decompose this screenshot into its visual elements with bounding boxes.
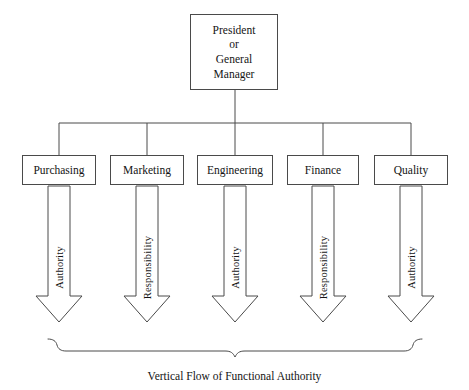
department-label-purchasing: Purchasing [33,163,84,178]
flow-label-purchasing: Authority [54,208,65,328]
org-chart-diagram: President or General Manager Purchasing … [0,0,469,390]
flow-label-marketing: Responsibility [142,208,153,328]
node-president-or-general-manager[interactable]: President or General Manager [190,14,278,90]
top-node-line-3: General [216,52,252,67]
node-department-engineering[interactable]: Engineering [197,155,273,185]
flow-label-quality: Authority [406,208,417,328]
department-label-marketing: Marketing [123,163,171,178]
top-node-line-4: Manager [214,67,255,82]
department-label-finance: Finance [305,163,341,178]
node-department-finance[interactable]: Finance [287,155,359,185]
bottom-curly-brace [48,339,422,357]
top-node-line-2: or [229,37,239,52]
node-department-marketing[interactable]: Marketing [110,155,184,185]
flow-label-finance: Responsibility [318,208,329,328]
department-label-engineering: Engineering [207,163,263,178]
department-label-quality: Quality [394,163,429,178]
diagram-caption: Vertical Flow of Functional Authority [0,370,469,382]
flow-label-engineering: Authority [230,208,241,328]
top-node-line-1: President [213,23,256,38]
node-department-purchasing[interactable]: Purchasing [22,155,96,185]
node-department-quality[interactable]: Quality [374,155,448,185]
